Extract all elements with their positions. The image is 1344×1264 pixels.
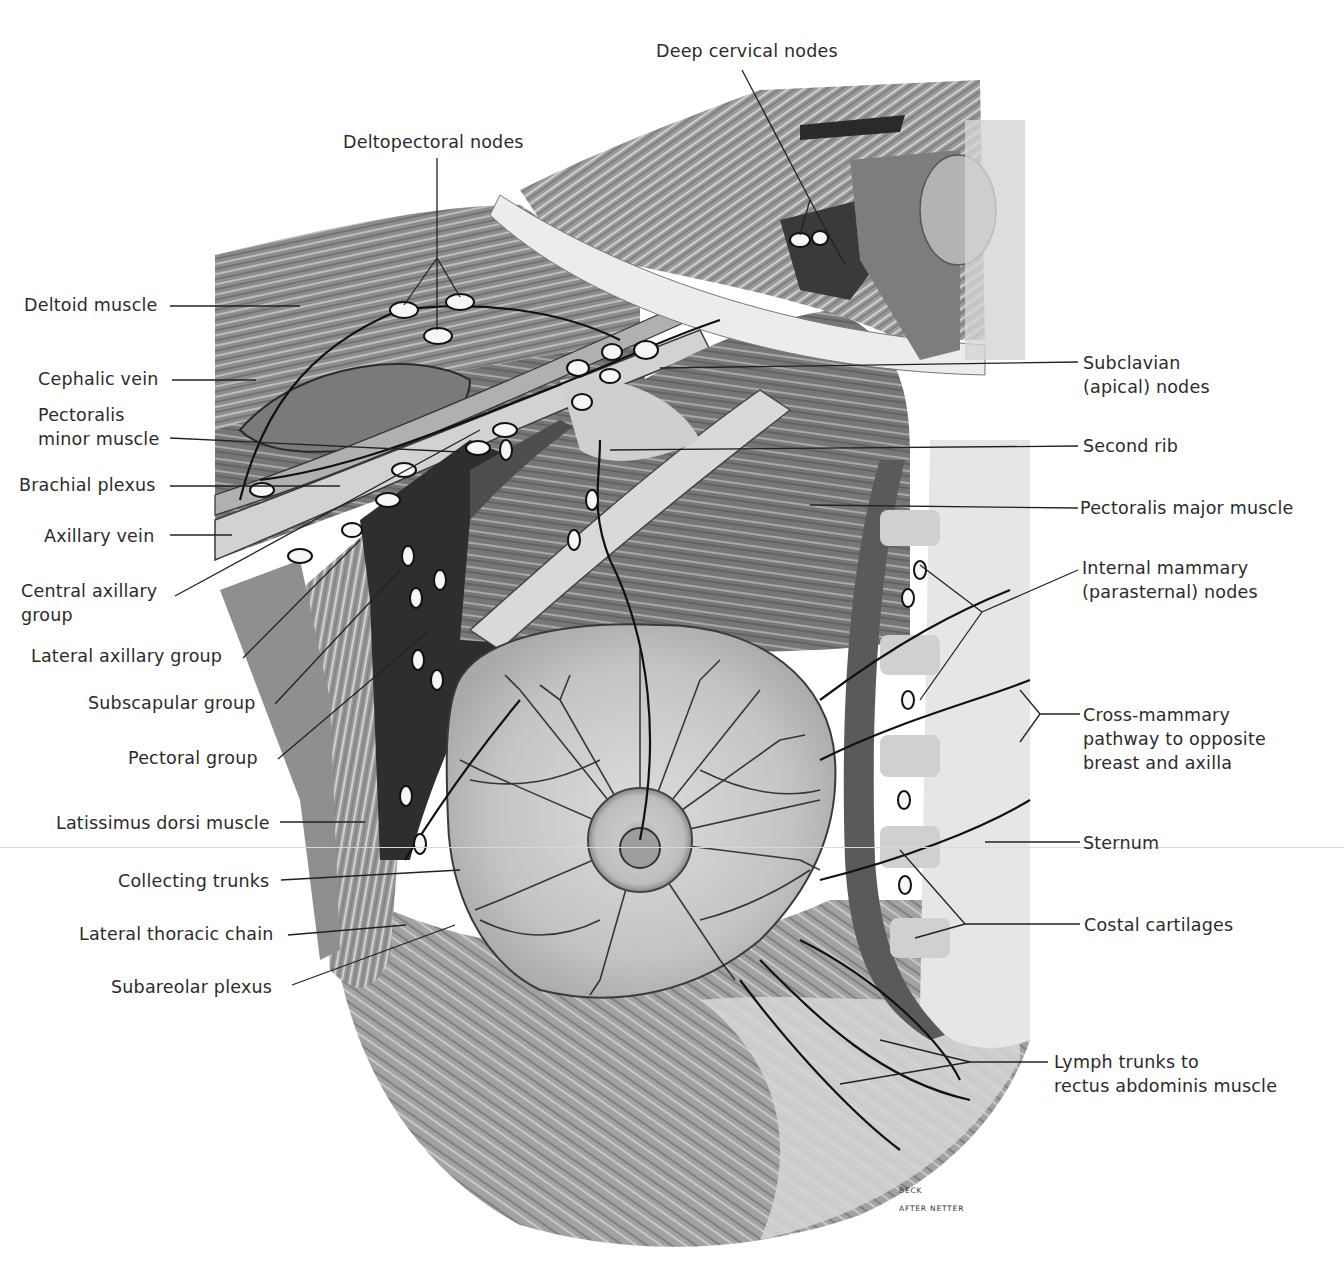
artist-credit-line2: AFTER NETTER	[899, 1204, 964, 1213]
label-pectoralis-major: Pectoralis major muscle	[1080, 496, 1293, 520]
subclavian-node	[567, 360, 589, 376]
central-node	[376, 493, 400, 507]
label-cephalic-vein: Cephalic vein	[38, 367, 159, 391]
pectoral-node	[568, 530, 580, 550]
label-pectoralis-minor: Pectoralis minor muscle	[38, 403, 159, 451]
subscapular-node	[410, 588, 422, 608]
pectoral-node	[431, 670, 443, 690]
label-pectoralis-minor-line1: Pectoralis	[38, 403, 159, 427]
label-lymph-trunks-line2: rectus abdominis muscle	[1054, 1074, 1277, 1098]
internal-mammary-node	[899, 876, 911, 894]
subclavian-node	[600, 369, 620, 383]
label-subclavian-line2: (apical) nodes	[1083, 375, 1210, 399]
label-subareolar-plexus: Subareolar plexus	[111, 975, 272, 999]
label-central-axillary-line2: group	[21, 603, 157, 627]
label-cross-mammary-line1: Cross-mammary	[1083, 703, 1266, 727]
internal-mammary-node	[902, 691, 914, 709]
label-subclavian-nodes: Subclavian (apical) nodes	[1083, 351, 1210, 399]
label-latissimus-dorsi: Latissimus dorsi muscle	[56, 811, 270, 835]
label-sternum: Sternum	[1083, 831, 1159, 855]
label-collecting-trunks: Collecting trunks	[118, 869, 269, 893]
label-lateral-thoracic-chain: Lateral thoracic chain	[79, 922, 273, 946]
deep-cervical-node	[812, 231, 828, 245]
label-axillary-vein: Axillary vein	[44, 524, 154, 548]
deltopectoral-node	[424, 328, 452, 344]
label-internal-mammary-line2: (parasternal) nodes	[1082, 580, 1258, 604]
internal-mammary-node	[902, 589, 914, 607]
subclavian-node	[634, 341, 658, 359]
label-central-axillary-group: Central axillary group	[21, 579, 157, 627]
label-deltoid-muscle: Deltoid muscle	[24, 293, 158, 317]
pectoral-node	[500, 440, 512, 460]
deep-cervical-node	[790, 233, 810, 247]
central-node	[493, 423, 517, 437]
subclavian-node	[602, 344, 622, 360]
pectoral-node	[434, 570, 446, 590]
nipple	[620, 828, 660, 868]
subscapular-node	[402, 546, 414, 566]
lateral-node	[342, 523, 362, 537]
label-costal-cartilages: Costal cartilages	[1084, 913, 1233, 937]
label-pectoral-group: Pectoral group	[128, 746, 258, 770]
central-node	[466, 441, 490, 455]
label-subclavian-line1: Subclavian	[1083, 351, 1210, 375]
label-cross-mammary-line2: pathway to opposite	[1083, 727, 1266, 751]
artist-credit-line1: BECK	[899, 1186, 922, 1195]
subscapular-node	[412, 650, 424, 670]
label-lymph-trunks-line1: Lymph trunks to	[1054, 1050, 1277, 1074]
label-cross-mammary-pathway: Cross-mammary pathway to opposite breast…	[1083, 703, 1266, 775]
label-cross-mammary-line3: breast and axilla	[1083, 751, 1266, 775]
label-subscapular-group: Subscapular group	[88, 691, 256, 715]
trachea	[965, 120, 1025, 360]
label-internal-mammary-line1: Internal mammary	[1082, 556, 1258, 580]
label-second-rib: Second rib	[1083, 434, 1178, 458]
pectoral-node	[586, 490, 598, 510]
pectoral-node	[414, 834, 426, 854]
subclavian-node	[572, 394, 592, 410]
pectoral-node	[400, 786, 412, 806]
internal-mammary-node	[898, 791, 910, 809]
internal-mammary-node	[914, 561, 926, 579]
label-deep-cervical-nodes: Deep cervical nodes	[656, 39, 838, 63]
label-internal-mammary-nodes: Internal mammary (parasternal) nodes	[1082, 556, 1258, 604]
label-pectoralis-minor-line2: minor muscle	[38, 427, 159, 451]
lateral-node	[250, 483, 274, 497]
label-lateral-axillary-group: Lateral axillary group	[31, 644, 222, 668]
label-central-axillary-line1: Central axillary	[21, 579, 157, 603]
label-deltopectoral-nodes: Deltopectoral nodes	[343, 130, 524, 154]
central-node	[392, 463, 416, 477]
label-lymph-trunks: Lymph trunks to rectus abdominis muscle	[1054, 1050, 1277, 1098]
label-brachial-plexus: Brachial plexus	[19, 473, 156, 497]
lateral-node	[288, 549, 312, 563]
